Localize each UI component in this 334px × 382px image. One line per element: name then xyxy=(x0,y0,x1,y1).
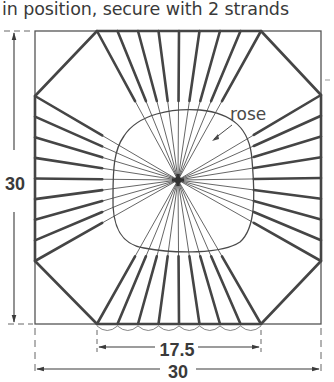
spoke-thick xyxy=(200,256,220,324)
spoke-thick xyxy=(35,96,102,135)
spoke-thick xyxy=(189,256,199,324)
spoke-thick xyxy=(222,256,261,324)
stitch-scallop xyxy=(220,326,241,331)
spoke-thick xyxy=(189,31,199,101)
spoke-thick xyxy=(35,158,102,168)
spoke-thick xyxy=(211,256,240,324)
spoke-thick xyxy=(222,31,261,101)
stitch-scallops xyxy=(97,326,261,331)
stitch-scallop xyxy=(118,326,139,331)
spoke-thick xyxy=(159,31,168,101)
spoke-thick xyxy=(200,31,220,101)
spoke-thick xyxy=(35,223,102,261)
stitch-scallop xyxy=(179,326,200,331)
spoke-thick xyxy=(35,117,102,147)
stitch-scallop xyxy=(97,326,118,331)
height-dim-label: 30 xyxy=(5,174,25,194)
stitch-scallop xyxy=(200,326,221,331)
spoke-thick xyxy=(211,31,240,101)
spoke-thick xyxy=(254,137,321,157)
stitch-scallop xyxy=(159,326,180,331)
rose-leader-arrow-icon xyxy=(212,134,219,141)
spoke-thick xyxy=(35,137,102,157)
spoke-thick xyxy=(97,256,135,324)
rose-frame-diagram: rose 30 17.5 30 xyxy=(0,0,334,382)
stitch-scallop xyxy=(241,326,262,331)
spoke-thick xyxy=(254,223,321,261)
inner-width-label: 17.5 xyxy=(159,340,194,360)
spoke-thick xyxy=(254,190,321,199)
stitch-scallop xyxy=(138,326,159,331)
spoke-thick xyxy=(97,31,135,101)
spoke-thick xyxy=(35,179,102,180)
spoke-thick xyxy=(254,178,321,179)
spoke-thick xyxy=(35,190,102,199)
rose-label: rose xyxy=(230,104,266,124)
width-dim-label: 30 xyxy=(168,362,188,382)
spoke-thick xyxy=(159,256,168,324)
center-knot-cross xyxy=(172,174,184,186)
spoke-thick xyxy=(254,157,321,168)
